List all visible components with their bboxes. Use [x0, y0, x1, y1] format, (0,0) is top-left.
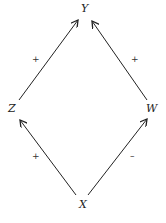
sign-z-to-y: +: [32, 54, 40, 64]
diagram-canvas: [0, 0, 166, 223]
node-z: Z: [8, 102, 16, 115]
node-y: Y: [81, 2, 88, 15]
edge-w-to-y: [92, 21, 147, 100]
node-w: W: [146, 102, 157, 115]
sign-w-to-y: +: [131, 54, 139, 64]
sign-x-to-z: +: [32, 151, 40, 161]
node-x: X: [79, 198, 87, 211]
edge-x-to-z: [20, 120, 76, 195]
sign-x-to-w: –: [130, 151, 135, 161]
edge-z-to-y: [19, 20, 78, 100]
edge-x-to-w: [88, 119, 147, 195]
